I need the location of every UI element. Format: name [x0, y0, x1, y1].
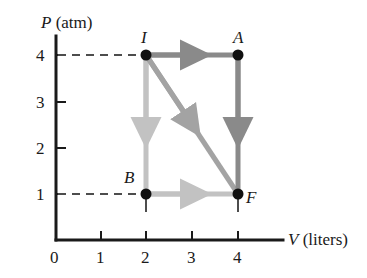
point-drop-ticks	[146, 194, 238, 212]
x-tick-label-0: 0	[50, 249, 59, 266]
point-B-marker[interactable]	[141, 189, 152, 200]
y-axis-title-var: P	[41, 13, 51, 32]
y-tick-label-3: 3	[36, 94, 45, 111]
axis-lines	[56, 36, 283, 240]
point-F-marker[interactable]	[233, 189, 244, 200]
x-axis-title: V (liters)	[288, 231, 348, 248]
point-I-marker[interactable]	[141, 50, 152, 61]
point-label-A: A	[233, 29, 243, 46]
x-tick-label-4: 4	[233, 249, 242, 266]
x-axis-title-var: V	[288, 230, 298, 249]
y-axis-title: P (atm)	[41, 14, 92, 31]
x-tick-label-2: 2	[141, 249, 150, 266]
pv-diagram-figure: P (atm) V (liters) 4 3 2 1 0 1 2 3 4 I A…	[0, 0, 367, 278]
point-label-I: I	[141, 29, 147, 46]
x-tick-label-3: 3	[187, 249, 196, 266]
x-tick-label-1: 1	[96, 249, 105, 266]
point-label-F: F	[246, 189, 256, 206]
path-I-to-F	[146, 55, 238, 194]
path-I-to-F-arrowhead	[146, 55, 192, 124]
point-A-marker[interactable]	[233, 50, 244, 61]
point-label-B: B	[124, 169, 134, 186]
y-tick-label-2: 2	[36, 140, 45, 157]
y-tick-label-4: 4	[36, 47, 45, 64]
x-axis-title-unit: (liters)	[303, 230, 348, 249]
y-axis-title-unit: (atm)	[56, 13, 93, 32]
y-tick-label-1: 1	[36, 186, 45, 203]
